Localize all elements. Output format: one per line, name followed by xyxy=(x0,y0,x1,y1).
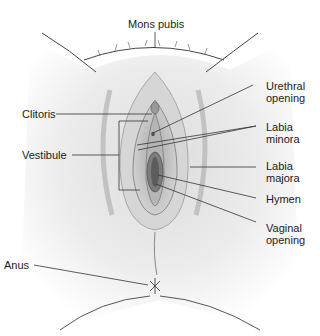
label-vestibule: Vestibule xyxy=(22,149,67,161)
label-labia-majora: Labia majora xyxy=(266,160,300,184)
label-hymen: Hymen xyxy=(266,193,301,205)
clitoris-shape xyxy=(151,102,159,114)
label-urethral-opening: Urethral opening xyxy=(266,80,305,104)
label-vaginal-opening: Vaginal opening xyxy=(266,222,305,246)
label-labia-minora: Labia minora xyxy=(266,121,300,145)
label-mons-pubis: Mons pubis xyxy=(128,18,184,30)
label-anus: Anus xyxy=(4,259,29,271)
label-clitoris: Clitoris xyxy=(22,108,56,120)
